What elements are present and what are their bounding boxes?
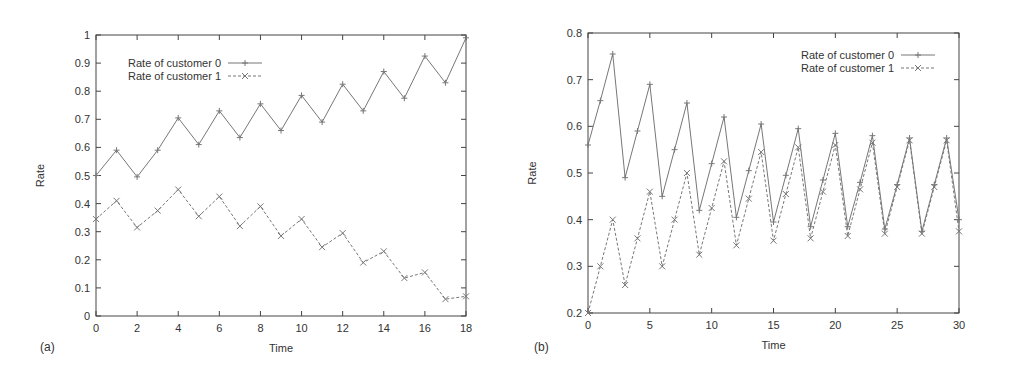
y-tick-label: 0.1: [75, 282, 90, 294]
x-tick-label: 16: [419, 322, 431, 334]
chart-panel-a: 00.10.20.30.40.50.60.70.80.9102468101214…: [0, 0, 505, 373]
x-axis-label: Time: [269, 342, 293, 354]
legend: Rate of customer 0Rate of customer 1: [801, 49, 935, 74]
y-tick-label: 0.6: [75, 141, 90, 153]
panel-label-a: (a): [40, 340, 55, 354]
y-tick-label: 0.4: [567, 214, 582, 226]
series-line: [588, 140, 959, 313]
y-tick-label: 0.8: [567, 27, 582, 39]
series-0: [585, 51, 962, 234]
x-tick-label: 10: [295, 322, 307, 334]
legend-label: Rate of customer 0: [128, 57, 221, 69]
panel-label-b: (b): [534, 340, 549, 354]
x-tick-label: 18: [460, 322, 472, 334]
y-tick-label: 0.6: [567, 120, 582, 132]
x-tick-label: 4: [175, 322, 181, 334]
x-tick-label: 10: [706, 319, 718, 331]
x-tick-label: 2: [134, 322, 140, 334]
x-tick-label: 30: [953, 319, 965, 331]
x-tick-label: 8: [257, 322, 263, 334]
series-line: [96, 190, 466, 300]
line-chart-b: 0.20.30.40.50.60.70.8051015202530TimeRat…: [505, 0, 1010, 373]
y-tick-label: 1: [84, 29, 90, 41]
x-axis-label: Time: [761, 339, 785, 351]
legend-label: Rate of customer 0: [801, 49, 894, 61]
x-tick-label: 0: [585, 319, 591, 331]
chart-panel-b: 0.20.30.40.50.60.70.8051015202530TimeRat…: [505, 0, 1010, 373]
x-tick-label: 20: [829, 319, 841, 331]
legend: Rate of customer 0Rate of customer 1: [128, 57, 262, 82]
y-tick-label: 0: [84, 310, 90, 322]
y-axis-label: Rate: [526, 161, 538, 184]
plot-frame: [588, 33, 959, 313]
y-tick-label: 0.4: [75, 198, 90, 210]
y-tick-label: 0.3: [567, 260, 582, 272]
line-chart-a: 00.10.20.30.40.50.60.70.80.9102468101214…: [0, 0, 505, 373]
x-tick-label: 25: [891, 319, 903, 331]
x-tick-label: 5: [647, 319, 653, 331]
y-axis-label: Rate: [34, 164, 46, 187]
x-tick-label: 15: [767, 319, 779, 331]
y-tick-label: 0.3: [75, 226, 90, 238]
y-tick-label: 0.7: [567, 74, 582, 86]
y-tick-label: 0.2: [75, 254, 90, 266]
x-tick-label: 14: [378, 322, 390, 334]
legend-label: Rate of customer 1: [801, 62, 894, 74]
y-tick-label: 0.9: [75, 57, 90, 69]
y-tick-label: 0.8: [75, 85, 90, 97]
series-line: [588, 54, 959, 231]
y-tick-label: 0.7: [75, 113, 90, 125]
x-tick-label: 0: [93, 322, 99, 334]
y-tick-label: 0.5: [567, 167, 582, 179]
series-1: [585, 137, 962, 316]
legend-label: Rate of customer 1: [128, 70, 221, 82]
x-tick-label: 6: [216, 322, 222, 334]
series-1: [93, 187, 469, 303]
y-tick-label: 0.5: [75, 170, 90, 182]
x-tick-label: 12: [337, 322, 349, 334]
y-tick-label: 0.2: [567, 307, 582, 319]
